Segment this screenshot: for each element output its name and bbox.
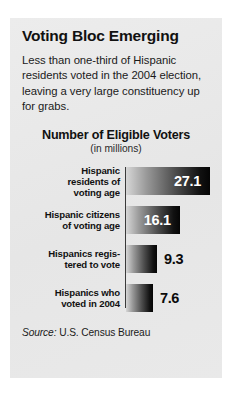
bar-value-label: 7.6 <box>160 290 179 306</box>
bar-category-label-line: of voting age <box>20 220 120 231</box>
bar-row: Hispanics who voted in 2004 7.6 <box>126 284 210 312</box>
bar-category-label-line: voting age <box>20 187 120 198</box>
source-text: U.S. Census Bureau <box>56 327 150 338</box>
bar-category-label-line: Hispanics regis- <box>20 248 120 259</box>
bar-category-label-line: Hispanics who <box>20 287 120 298</box>
bar-category-label-line: residents of <box>20 176 120 187</box>
bar-category-label: Hispanic residents of voting age <box>20 165 120 199</box>
bar-category-label: Hispanics regis- tered to vote <box>20 248 120 271</box>
bar-category-label: Hispanics who voted in 2004 <box>20 287 120 310</box>
bar-value-label: 16.1 <box>144 212 180 228</box>
source-keyword: Source: <box>22 327 56 338</box>
bar-value-label: 9.3 <box>164 251 183 267</box>
bar-category-label-line: Hispanic <box>20 165 120 176</box>
bar-category-label-line: voted in 2004 <box>20 298 120 309</box>
bar <box>126 284 153 312</box>
bar-category-label: Hispanic citizens of voting age <box>20 209 120 232</box>
bar: 16.1 <box>126 206 180 234</box>
bar-chart: Hispanic residents of voting age 27.1 Hi… <box>22 167 210 312</box>
bar-row: Hispanics regis- tered to vote 9.3 <box>126 245 210 273</box>
source-line: Source: U.S. Census Bureau <box>22 327 210 338</box>
headline: Voting Bloc Emerging <box>22 27 210 44</box>
bar-row: Hispanic citizens of voting age 16.1 <box>126 206 210 234</box>
infographic-panel: Voting Bloc Emerging Less than one-third… <box>10 18 222 378</box>
deck-text: Less than one-third of Hispanic resident… <box>22 53 210 114</box>
bar-category-label-line: tered to vote <box>20 259 120 270</box>
bar: 27.1 <box>126 167 210 195</box>
bar <box>126 245 157 273</box>
panel-inner: Voting Bloc Emerging Less than one-third… <box>10 18 222 378</box>
bar-row: Hispanic residents of voting age 27.1 <box>126 167 210 195</box>
chart-subtitle: (in millions) <box>22 143 210 154</box>
bar-value-label: 27.1 <box>174 173 210 189</box>
bar-category-label-line: Hispanic citizens <box>20 209 120 220</box>
chart-title: Number of Eligible Voters <box>22 128 210 142</box>
